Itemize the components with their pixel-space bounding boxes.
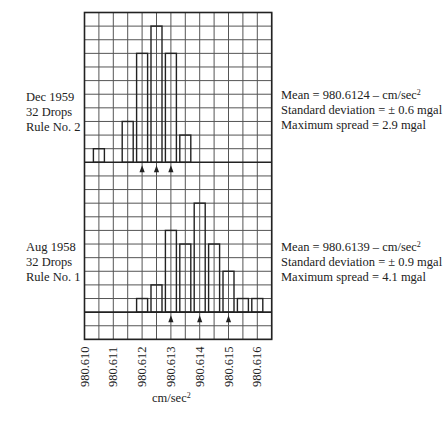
histogram-bar: [122, 121, 133, 162]
bottom-panel-date: Aug 1958: [26, 240, 81, 255]
x-tick-label: 980.614: [193, 346, 208, 387]
histogram-bar: [194, 203, 205, 312]
histogram-bar: [223, 271, 234, 312]
arrow-up-icon: [226, 315, 231, 322]
histogram-bar: [137, 53, 148, 162]
histogram-bar: [252, 299, 263, 313]
x-tick-label: 980.611: [106, 347, 121, 387]
histogram-bar: [151, 285, 162, 312]
arrow-up-icon: [197, 315, 202, 322]
top-panel-rule: Rule No. 2: [26, 120, 81, 135]
bottom-panel-rule: Rule No. 1: [26, 270, 81, 285]
top-std: Standard deviation = ± 0.6 mgal: [281, 103, 442, 118]
histogram-bar: [165, 53, 176, 162]
histogram-bar: [237, 299, 248, 313]
histogram-bar: [180, 244, 191, 312]
top-mean: Mean = 980.6124 – cm/sec2: [281, 88, 442, 103]
top-panel-label: Dec 1959 32 Drops Rule No. 2: [26, 90, 81, 135]
x-tick-label: 980.612: [135, 346, 150, 387]
histogram-bar: [180, 135, 191, 162]
arrow-up-icon: [168, 315, 173, 322]
grid-lines: [85, 13, 272, 340]
bottom-panel-label: Aug 1958 32 Drops Rule No. 1: [26, 240, 81, 285]
histogram-bar: [93, 149, 104, 163]
histogram-bar: [137, 299, 148, 313]
top-panel-stats: Mean = 980.6124 – cm/sec2 Standard devia…: [281, 88, 442, 133]
x-tick-label: 980.610: [78, 346, 93, 387]
x-tick-label: 980.615: [222, 346, 237, 387]
histogram-bar: [151, 26, 162, 162]
arrow-up-icon: [168, 165, 173, 172]
bottom-panel-drops: 32 Drops: [26, 255, 81, 270]
x-tick-label: 980.616: [250, 346, 265, 387]
bottom-std: Standard deviation = ± 0.9 mgal: [281, 255, 442, 270]
histogram-bar: [209, 244, 220, 312]
top-spread: Maximum spread = 2.9 mgal: [281, 118, 442, 133]
x-axis-unit-label: cm/sec2: [152, 391, 191, 406]
arrow-up-icon: [154, 165, 159, 172]
bottom-spread: Maximum spread = 4.1 mgal: [281, 270, 442, 285]
arrow-up-icon: [140, 165, 145, 172]
histogram-bar: [165, 230, 176, 312]
x-tick-label: 980.613: [164, 346, 179, 387]
bottom-panel-stats: Mean = 980.6139 – cm/sec2 Standard devia…: [281, 240, 442, 285]
top-panel-date: Dec 1959: [26, 90, 81, 105]
top-panel-drops: 32 Drops: [26, 105, 81, 120]
bottom-mean: Mean = 980.6139 – cm/sec2: [281, 240, 442, 255]
